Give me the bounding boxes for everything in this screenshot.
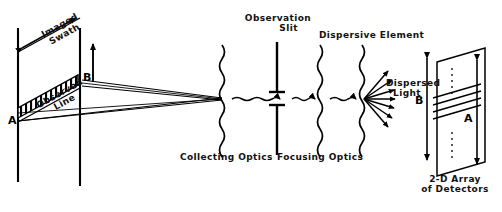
focusing-optics-icon	[318, 45, 323, 157]
beam-to-slit-icon	[232, 98, 280, 101]
diagram-canvas: Imaged Swath Observed Line A B Observati…	[0, 0, 502, 212]
detector-point-b-label: B	[415, 94, 423, 107]
detector-point-a-label: A	[464, 112, 473, 125]
scene-point-b-label: B	[83, 71, 91, 84]
observation-slit-label: Observation Slit	[237, 13, 319, 34]
beam-to-dispersive-icon	[330, 98, 356, 101]
dispersive-element-label: Dispersive Element	[319, 30, 424, 40]
scene-point-a-label: A	[8, 114, 17, 127]
detector-array-label: 2-D Array of Detectors	[412, 174, 498, 195]
dispersive-element-icon	[360, 45, 365, 157]
beam-to-focusing-icon	[292, 98, 315, 101]
collecting-optics-icon	[220, 45, 225, 157]
collecting-optics-label: Collecting Optics	[180, 152, 273, 162]
focusing-optics-label: Focusing Optics	[277, 152, 363, 162]
dispersed-light-label: Dispersed Light	[386, 78, 440, 99]
